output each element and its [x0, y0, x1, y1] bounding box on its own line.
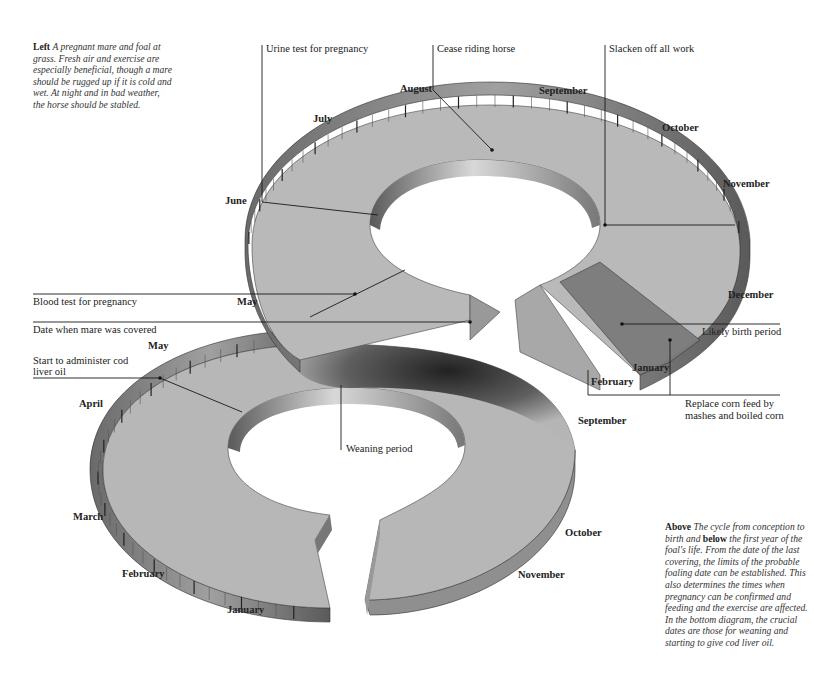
upper-month-november: November: [723, 178, 770, 189]
lower-month-april: April: [79, 398, 103, 409]
note-birth-period: Likely birth period: [702, 326, 782, 337]
caption-right-lead-above: Above: [665, 521, 691, 532]
upper-ring-start-block: [470, 295, 500, 340]
upper-month-january: January: [632, 362, 670, 373]
note-replace-corn-1: Replace corn feed by: [685, 398, 775, 409]
caption-left: Left A pregnant mare and foal at grass. …: [33, 41, 173, 111]
upper-month-october: October: [662, 122, 699, 133]
lower-month-february: February: [122, 568, 165, 579]
note-date-covered: Date when mare was covered: [33, 324, 157, 335]
upper-month-may: May: [237, 296, 258, 307]
lower-month-october: October: [565, 527, 602, 538]
upper-month-july: July: [313, 113, 333, 124]
note-urine-test: Urine test for pregnancy: [266, 43, 369, 54]
upper-month-august: August: [400, 83, 433, 94]
caption-left-text: A pregnant mare and foal at grass. Fresh…: [33, 41, 172, 110]
upper-month-december: December: [728, 289, 774, 300]
note-blood-test: Blood test for pregnancy: [33, 296, 138, 307]
caption-right: Above The cycle from conception to birth…: [665, 521, 813, 649]
upper-month-june: June: [225, 195, 247, 206]
note-cod-liver-oil-2: liver oil: [33, 366, 66, 377]
note-weaning: Weaning period: [346, 443, 413, 454]
lower-month-march: March: [73, 511, 103, 522]
note-cod-liver-oil-1: Start to administer cod: [33, 355, 129, 366]
lower-month-november: November: [518, 569, 565, 580]
upper-month-february: February: [591, 376, 634, 387]
upper-month-september: September: [539, 85, 588, 96]
note-slacken-work: Slacken off all work: [609, 43, 695, 54]
note-cease-riding: Cease riding horse: [437, 43, 515, 54]
lower-month-may: May: [148, 340, 169, 351]
caption-left-lead: Left: [33, 41, 50, 52]
caption-right-text-2: the first year of the foal's life. From …: [665, 533, 808, 648]
caption-right-lead-below: below: [703, 533, 727, 544]
lower-month-september: September: [578, 415, 627, 426]
lower-month-january: January: [227, 604, 265, 615]
note-replace-corn-2: mashes and boiled corn: [685, 410, 785, 421]
